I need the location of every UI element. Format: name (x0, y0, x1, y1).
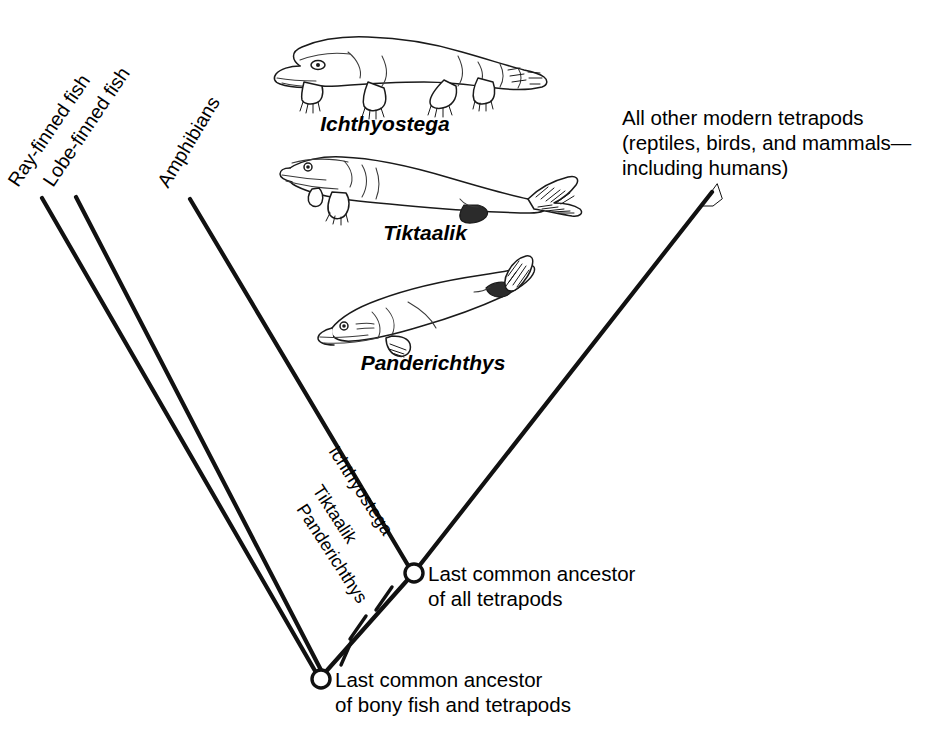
node-bony-fish-tetrapod-ancestor (312, 670, 330, 688)
callout-modern-tetrapods-line3: including humans) (622, 156, 788, 179)
taxon-name-ichthyostega: Ichthyostega (320, 112, 450, 135)
branch-modern-tetrapods (416, 192, 712, 570)
taxon-name-panderichthys: Panderichthys (361, 351, 506, 374)
cladogram-figure: Ray-finned fish Lobe-finned fish Amphibi… (0, 0, 945, 742)
node-label-bony-fish-ancestor-line2: of bony fish and tetrapods (335, 693, 571, 716)
node-label-tetrapod-ancestor-line2: of all tetrapods (428, 587, 562, 610)
node-label-tetrapod-ancestor-line1: Last common ancestor (428, 562, 636, 585)
callout-modern-tetrapods-line2: (reptiles, birds, and mammals— (622, 131, 912, 154)
branch-lobe-finned-fish (76, 197, 322, 672)
tiktaalik-illustration (280, 157, 582, 225)
taxon-name-tiktaalik: Tiktaalik (383, 221, 468, 244)
callout-modern-tetrapods-line1: All other modern tetrapods (622, 106, 864, 129)
node-tetrapod-ancestor (405, 564, 423, 582)
tree-branches (42, 184, 722, 676)
panderichthys-illustration (318, 256, 535, 357)
tip-label-amphibians: Amphibians (153, 92, 224, 191)
ichthyostega-illustration (274, 37, 546, 119)
node-label-bony-fish-ancestor-line1: Last common ancestor (335, 668, 543, 691)
branch-ray-finned-fish (42, 198, 318, 676)
